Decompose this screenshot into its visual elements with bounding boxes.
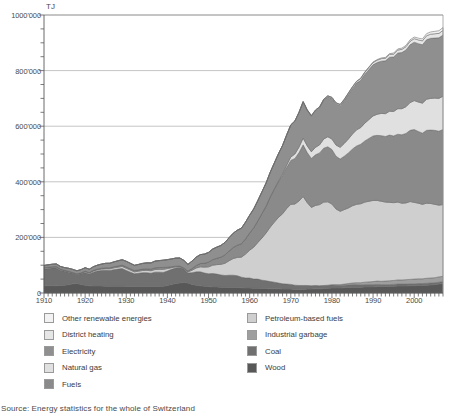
legend-label: Fuels	[62, 380, 81, 389]
x-axis-tick-label: 1910	[36, 296, 52, 305]
legend-label: Wood	[265, 363, 285, 372]
x-axis-tick-label: 1980	[324, 296, 340, 305]
legend-color-swatch	[44, 363, 54, 373]
legend-label: Electricity	[62, 347, 95, 356]
x-axis-tick-label: 1920	[77, 296, 93, 305]
legend-color-swatch	[247, 313, 257, 323]
legend-color-swatch	[247, 363, 257, 373]
legend-label: Industrial garbage	[265, 330, 327, 339]
x-axis-tick-label: 1960	[242, 296, 258, 305]
legend-label: Other renewable energies	[62, 314, 152, 323]
legend-color-swatch	[44, 313, 54, 323]
plot-area	[0, 0, 453, 310]
x-axis-tick-label: 2000	[406, 296, 422, 305]
energy-consumption-stacked-area-chart: TJ 0200'000400'000600'000800'0001000'000…	[0, 0, 453, 419]
source-note: Source: Energy statistics for the whole …	[1, 404, 195, 413]
chart-legend: Other renewable energiesDistrict heating…	[44, 310, 444, 393]
x-axis-tick-label: 1950	[200, 296, 216, 305]
x-axis-tick-label: 1970	[283, 296, 299, 305]
legend-color-swatch	[44, 346, 54, 356]
legend-label: Natural gas	[62, 363, 102, 372]
legend-color-swatch	[247, 346, 257, 356]
x-axis-tick-label: 1990	[365, 296, 381, 305]
legend-color-swatch	[247, 330, 257, 340]
legend-item[interactable]: Coal	[247, 343, 444, 360]
legend-item[interactable]: Electricity	[44, 343, 241, 360]
legend-item[interactable]: Fuels	[44, 376, 241, 393]
legend-label: Petroleum-based fuels	[265, 314, 343, 323]
legend-item[interactable]: District heating	[44, 327, 241, 344]
legend-item[interactable]: Industrial garbage	[247, 327, 444, 344]
x-axis-tick-label: 1930	[118, 296, 134, 305]
legend-item[interactable]: Other renewable energies	[44, 310, 241, 327]
x-axis-tick-label: 1940	[159, 296, 175, 305]
legend-color-swatch	[44, 330, 54, 340]
legend-item[interactable]: Natural gas	[44, 360, 241, 377]
legend-label: Coal	[265, 347, 281, 356]
legend-color-swatch	[44, 379, 54, 389]
legend-label: District heating	[62, 330, 114, 339]
legend-item[interactable]: Petroleum-based fuels	[247, 310, 444, 327]
legend-item[interactable]: Wood	[247, 360, 444, 377]
